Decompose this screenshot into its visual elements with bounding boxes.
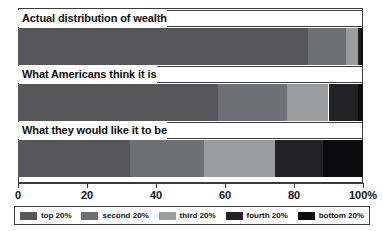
panel-americans-think: What Americans think it is (18, 66, 363, 122)
x-axis-tick-label: 100% (349, 189, 377, 201)
legend-item-label: third 20% (180, 211, 216, 220)
panel-actual-distribution: Actual distribution of wealth (18, 10, 363, 66)
x-axis-line (18, 183, 363, 184)
bar-segment (358, 84, 363, 121)
legend-swatch-icon (298, 212, 315, 220)
x-axis-tick-label: 60 (219, 189, 231, 201)
panel-title: What Americans think it is (18, 66, 157, 83)
bar-segment (361, 28, 363, 65)
stacked-bar (18, 28, 363, 65)
legend-item-label: fourth 20% (247, 211, 288, 220)
legend-item[interactable]: fourth 20% (226, 211, 288, 220)
panel-would-like-it-to-be: What they would like it to be (18, 122, 363, 178)
bar-segment (275, 140, 323, 177)
stacked-bar (18, 140, 363, 177)
bar-segment (18, 28, 308, 65)
bar-segment (329, 84, 358, 121)
legend-item-label: second 20% (102, 211, 148, 220)
legend-item-label: top 20% (41, 211, 72, 220)
legend-item-label: bottom 20% (319, 211, 364, 220)
legend-item[interactable]: bottom 20% (298, 211, 364, 220)
wealth-distribution-chart: Actual distribution of wealth What Ameri… (0, 0, 382, 231)
stacked-bar (18, 84, 363, 121)
x-axis-tick (294, 183, 295, 188)
panel-title: What they would like it to be (18, 122, 167, 139)
legend-item[interactable]: top 20% (20, 211, 72, 220)
bar-segment (130, 140, 204, 177)
legend-swatch-icon (20, 212, 37, 220)
x-axis-tick-label: 40 (150, 189, 162, 201)
bar-segment (346, 28, 358, 65)
x-axis-tick-label: 80 (288, 189, 300, 201)
legend-swatch-icon (226, 212, 243, 220)
legend-item[interactable]: second 20% (81, 211, 148, 220)
chart-legend: top 20%second 20%third 20%fourth 20%bott… (14, 206, 370, 225)
x-axis-tick (225, 183, 226, 188)
x-axis-tick (87, 183, 88, 188)
bar-segment (308, 28, 346, 65)
legend-swatch-icon (159, 212, 176, 220)
bar-segment (287, 84, 328, 121)
legend-swatch-icon (81, 212, 98, 220)
x-axis-tick (363, 183, 364, 188)
bar-segment (323, 140, 363, 177)
legend-item[interactable]: third 20% (159, 211, 216, 220)
x-axis-tick-label: 0 (15, 189, 21, 201)
stacked-bar-panels: Actual distribution of wealth What Ameri… (18, 8, 363, 183)
bar-segment (18, 140, 130, 177)
bar-segment (218, 84, 287, 121)
x-axis-tick (156, 183, 157, 188)
panel-title: Actual distribution of wealth (18, 10, 167, 27)
bar-segment (18, 84, 218, 121)
x-axis-tick (18, 183, 19, 188)
bar-segment (204, 140, 275, 177)
x-axis-tick-label: 20 (81, 189, 93, 201)
